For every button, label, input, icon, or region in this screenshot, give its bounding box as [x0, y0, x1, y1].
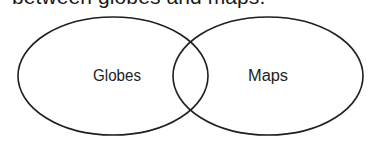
globes-label: Globes: [93, 67, 141, 84]
maps-label: Maps: [248, 67, 288, 84]
venn-diagram: Globes Maps: [0, 0, 386, 153]
